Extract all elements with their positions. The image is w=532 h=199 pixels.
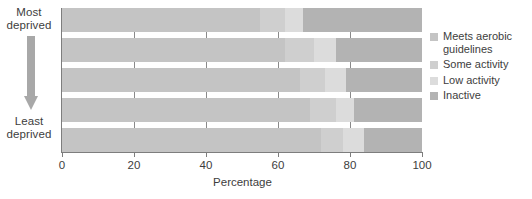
bar-segment bbox=[364, 128, 422, 152]
y-axis-annotation: Most deprived Least deprived bbox=[0, 0, 60, 160]
legend-label: Some activity bbox=[443, 58, 508, 71]
legend-label: Inactive bbox=[443, 89, 481, 102]
inner-tick-mark bbox=[278, 122, 279, 128]
x-axis-tick bbox=[134, 152, 135, 157]
x-axis-tick-label: 80 bbox=[344, 159, 357, 171]
x-axis-tick bbox=[422, 152, 423, 157]
x-axis-tick-label: 0 bbox=[59, 159, 65, 171]
x-axis-line bbox=[62, 152, 423, 153]
y-axis-top-label-line1: Most bbox=[16, 6, 41, 18]
inner-tick-mark bbox=[350, 32, 351, 38]
x-axis-tick-label: 60 bbox=[272, 159, 285, 171]
y-axis-top-label: Most deprived bbox=[0, 6, 58, 31]
x-axis-tick-label: 40 bbox=[200, 159, 213, 171]
bar-segment bbox=[260, 8, 285, 32]
legend-swatch-icon bbox=[430, 61, 438, 69]
y-axis-bottom-label: Least deprived bbox=[0, 115, 58, 140]
bar-segment bbox=[62, 38, 285, 62]
arrow-head bbox=[24, 96, 38, 110]
bar-segment bbox=[336, 38, 422, 62]
deprivation-arrow-icon bbox=[24, 36, 38, 112]
bar-segment bbox=[62, 98, 310, 122]
legend-item[interactable]: Meets aerobicguidelines bbox=[430, 30, 530, 55]
x-axis-tick bbox=[206, 152, 207, 157]
inner-tick-mark bbox=[134, 92, 135, 98]
bar-row bbox=[62, 8, 422, 32]
bar-segment bbox=[336, 98, 354, 122]
bar-segment bbox=[62, 8, 260, 32]
y-axis-top-label-line2: deprived bbox=[7, 19, 52, 31]
y-axis-bottom-label-line1: Least bbox=[15, 115, 44, 127]
legend-swatch-icon bbox=[430, 33, 438, 41]
bar-row bbox=[62, 38, 422, 62]
bar-segment bbox=[62, 68, 300, 92]
y-axis-line bbox=[61, 8, 62, 153]
inner-tick-mark bbox=[350, 92, 351, 98]
bar-segment bbox=[285, 38, 314, 62]
y-axis-bottom-label-line2: deprived bbox=[7, 128, 52, 140]
arrow-shaft bbox=[27, 36, 35, 98]
plot-area bbox=[62, 8, 422, 152]
inner-tick-mark bbox=[134, 62, 135, 68]
inner-tick-mark bbox=[278, 62, 279, 68]
bar-segment bbox=[354, 98, 422, 122]
chart-legend: Meets aerobicguidelinesSome activityLow … bbox=[430, 30, 530, 105]
inner-tick-mark bbox=[350, 62, 351, 68]
bar-row bbox=[62, 98, 422, 122]
bar-segment bbox=[325, 68, 347, 92]
x-axis-tick bbox=[350, 152, 351, 157]
bar-segment bbox=[343, 128, 365, 152]
bar-segment bbox=[314, 38, 336, 62]
bar-segment bbox=[303, 8, 422, 32]
x-axis-tick bbox=[278, 152, 279, 157]
inner-tick-mark bbox=[206, 62, 207, 68]
inner-tick-mark bbox=[350, 122, 351, 128]
inner-tick-mark bbox=[278, 92, 279, 98]
x-axis-tick-label: 100 bbox=[412, 159, 431, 171]
bar-segment bbox=[346, 68, 422, 92]
inner-tick-mark bbox=[206, 122, 207, 128]
x-axis-tick bbox=[62, 152, 63, 157]
inner-tick-mark bbox=[206, 92, 207, 98]
x-axis-title: Percentage bbox=[62, 176, 423, 188]
inner-tick-mark bbox=[134, 122, 135, 128]
inner-tick-mark bbox=[134, 32, 135, 38]
legend-swatch-icon bbox=[430, 92, 438, 100]
inner-tick-mark bbox=[278, 32, 279, 38]
legend-item[interactable]: Low activity bbox=[430, 74, 530, 87]
bar-row bbox=[62, 68, 422, 92]
bar-segment bbox=[62, 128, 321, 152]
legend-item[interactable]: Inactive bbox=[430, 89, 530, 102]
bar-segment bbox=[285, 8, 303, 32]
bar-segment bbox=[310, 98, 335, 122]
bar-row bbox=[62, 128, 422, 152]
inner-tick-mark bbox=[206, 32, 207, 38]
legend-item[interactable]: Some activity bbox=[430, 58, 530, 71]
bar-segment bbox=[321, 128, 343, 152]
legend-label: Meets aerobicguidelines bbox=[443, 30, 512, 55]
bar-segment bbox=[300, 68, 325, 92]
legend-label: Low activity bbox=[443, 74, 500, 87]
stacked-bar-chart: Most deprived Least deprived 02040608010… bbox=[0, 0, 532, 199]
legend-swatch-icon bbox=[430, 77, 438, 85]
x-axis-tick-label: 20 bbox=[128, 159, 141, 171]
